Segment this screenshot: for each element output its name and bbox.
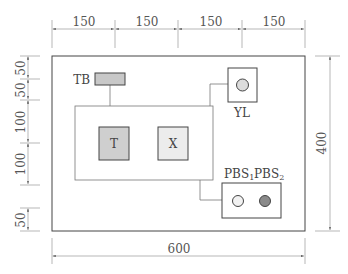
panel-layout-diagram: 150 150 150 150 50 50 100 100 50 400 600 xyxy=(0,0,348,274)
dim-left-5: 50 xyxy=(14,212,28,227)
dim-left-4: 100 xyxy=(14,153,28,176)
tb-label: TB xyxy=(73,73,90,87)
dim-left-3: 100 xyxy=(14,111,28,134)
x-label: X xyxy=(169,137,178,151)
push-button-box xyxy=(222,183,281,218)
dim-top-1: 150 xyxy=(73,15,96,29)
dim-bottom: 600 xyxy=(168,242,191,256)
terminal-block-tb xyxy=(95,73,125,85)
dim-left-1: 50 xyxy=(14,60,28,75)
dim-right: 400 xyxy=(315,132,329,155)
dim-left-2: 50 xyxy=(14,82,28,97)
t-label: T xyxy=(110,137,118,151)
dim-top-3: 150 xyxy=(200,15,223,29)
dim-top-4: 150 xyxy=(263,15,286,29)
left-dimension xyxy=(20,56,40,231)
yl-label: YL xyxy=(233,106,250,120)
pbs1-button-icon xyxy=(233,196,244,207)
pbs2-button-icon xyxy=(260,196,271,207)
lamp-icon xyxy=(237,79,249,91)
dim-top-2: 150 xyxy=(136,15,159,29)
